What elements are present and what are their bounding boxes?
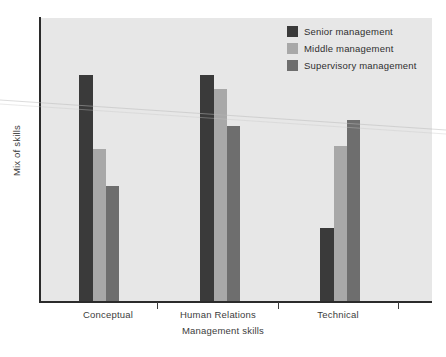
legend-label-middle: Middle management xyxy=(304,43,393,54)
y-axis-line xyxy=(39,17,41,303)
chart-legend: Senior management Middle management Supe… xyxy=(287,24,417,75)
x-axis-tick-3 xyxy=(398,302,399,309)
legend-swatch-senior-icon xyxy=(287,26,298,37)
bar-technical-supervisory xyxy=(347,120,360,302)
bar-conceptual-supervisory xyxy=(106,186,119,302)
legend-swatch-supervisory-icon xyxy=(287,60,298,71)
legend-swatch-middle-icon xyxy=(287,43,298,54)
x-axis-tick-2 xyxy=(278,302,279,309)
bar-technical-middle xyxy=(334,146,347,302)
bar-human-relations-senior xyxy=(200,75,214,302)
x-tick-label-conceptual: Conceptual xyxy=(58,309,158,320)
x-axis-title: Management skills xyxy=(0,325,446,336)
legend-label-supervisory: Supervisory management xyxy=(304,60,417,71)
bar-conceptual-middle xyxy=(93,149,106,302)
x-tick-label-technical: Technical xyxy=(288,309,388,320)
legend-item-senior: Senior management xyxy=(287,24,417,39)
bar-technical-senior xyxy=(320,228,334,302)
bar-conceptual-senior xyxy=(79,75,93,302)
bar-human-relations-supervisory xyxy=(227,126,240,302)
y-axis-title: Mix of skills xyxy=(11,101,22,201)
bar-chart: Senior management Middle management Supe… xyxy=(0,0,446,357)
x-axis-tick-1 xyxy=(157,302,158,309)
legend-item-middle: Middle management xyxy=(287,41,417,56)
legend-label-senior: Senior management xyxy=(304,26,393,37)
x-axis-line xyxy=(39,301,432,303)
legend-item-supervisory: Supervisory management xyxy=(287,58,417,73)
plot-area: Senior management Middle management Supe… xyxy=(41,18,432,302)
bar-human-relations-middle xyxy=(214,89,227,302)
x-tick-label-human-relations: Human Relations xyxy=(168,309,268,320)
